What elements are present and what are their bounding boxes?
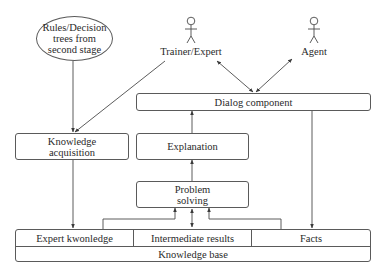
dialog-component-label: Dialog component <box>215 97 293 108</box>
trainer-expert-label: Trainer/Expert <box>151 46 231 57</box>
intermediate-results-label: Intermediate results <box>151 233 234 244</box>
agent-actor-icon <box>308 17 320 43</box>
explanation-label: Explanation <box>167 141 218 152</box>
facts-label: Facts <box>300 233 322 244</box>
knowledge-acquisition-line-2: acquisition <box>48 147 96 158</box>
knowledge-base-label: Knowledge base <box>158 249 228 260</box>
rules-line-1: Rules/Decision <box>42 22 106 33</box>
dialog-component-node: Dialog component <box>136 93 371 111</box>
rules-decision-trees-node: Rules/Decision trees from second stage <box>36 16 113 61</box>
knowledge-acquisition-line-1: Knowledge <box>48 136 96 147</box>
agent-label: Agent <box>289 46 339 57</box>
knowledge-base-node: Expert kwonledge Intermediate results Fa… <box>15 229 371 262</box>
trainer-expert-actor-icon <box>185 17 197 43</box>
knowledge-acquisition-node: Knowledge acquisition <box>15 133 129 160</box>
problem-solving-line-2: solving <box>175 195 211 206</box>
knowledge-base-title-cell: Knowledge base <box>16 246 370 262</box>
problem-solving-node: Problem solving <box>136 181 249 208</box>
intermediate-results-cell: Intermediate results <box>134 230 252 246</box>
facts-cell: Facts <box>252 230 370 246</box>
expert-knowledge-label: Expert kwonledge <box>36 233 113 244</box>
rules-line-2: trees from <box>42 33 106 44</box>
explanation-node: Explanation <box>136 133 249 160</box>
expert-knowledge-cell: Expert kwonledge <box>16 230 134 246</box>
problem-solving-line-1: Problem <box>175 184 211 195</box>
rules-line-3: second stage <box>42 44 106 55</box>
